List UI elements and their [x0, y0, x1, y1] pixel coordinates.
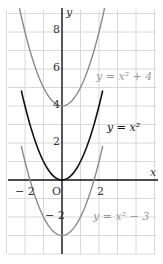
y-tick-4: 4	[53, 98, 60, 111]
x-tick-neg2: − 2	[15, 185, 35, 198]
y-tick-6: 6	[53, 61, 60, 74]
x-tick-2: 2	[97, 185, 104, 198]
curve-label-x2-plus-4: y = x² + 4	[95, 70, 152, 83]
x-axis-label: x	[150, 166, 157, 179]
y-tick-2: 2	[53, 135, 60, 148]
curve-label-x2: y = x²	[106, 121, 140, 134]
y-tick-neg2: − 2	[45, 209, 65, 222]
y-tick-8: 8	[53, 23, 60, 36]
parabola-chart: y x O 8 6 4 2 − 2 − 2 2 y = x² + 4 y = x…	[0, 0, 163, 264]
y-axis-label: y	[65, 6, 73, 19]
curve-label-x2-minus-3: y = x² − 3	[92, 210, 149, 223]
origin-label: O	[52, 185, 61, 198]
